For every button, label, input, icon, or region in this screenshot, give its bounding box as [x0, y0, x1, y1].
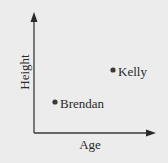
data-point-kelly [110, 67, 115, 72]
scatter-chart: Height Age Kelly Brendan [0, 0, 168, 163]
point-label-kelly: Kelly [118, 65, 147, 78]
data-point-brendan [52, 99, 57, 104]
y-axis-title: Height [17, 54, 33, 89]
point-label-brendan: Brendan [60, 97, 104, 110]
y-axis-arrow-icon [31, 12, 38, 22]
x-axis-arrow-icon [146, 130, 156, 137]
x-axis-title: Age [79, 137, 101, 153]
